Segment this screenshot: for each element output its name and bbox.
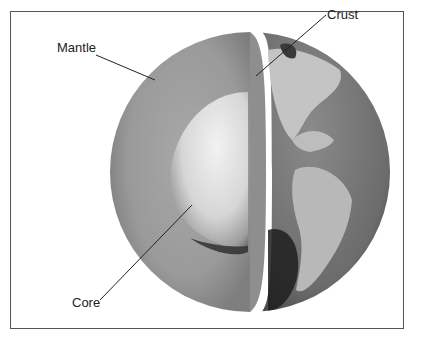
core-label: Core	[72, 295, 100, 310]
globe-surface	[262, 32, 402, 312]
mantle-leader-line	[96, 55, 155, 80]
crust-label: Crust	[327, 7, 358, 22]
mantle-label: Mantle	[57, 40, 96, 55]
